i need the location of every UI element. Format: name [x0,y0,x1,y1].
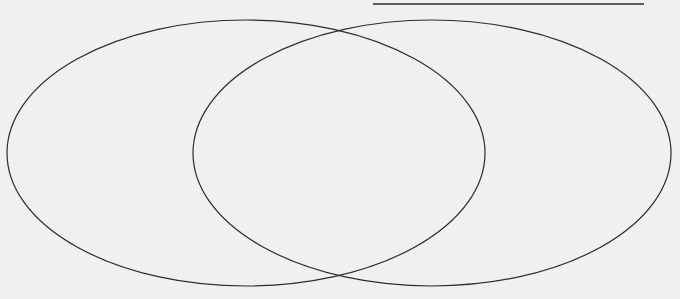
worksheet-page [0,0,680,299]
venn-diagram [0,0,680,299]
left-set-ellipse [7,20,485,286]
right-set-ellipse [193,20,671,286]
